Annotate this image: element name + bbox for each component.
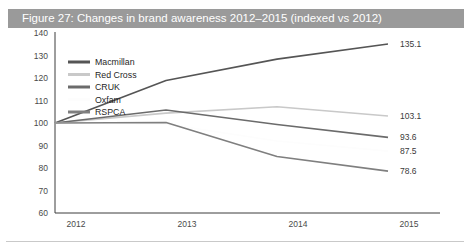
series-end-label-macmillan: 135.1 bbox=[400, 39, 422, 49]
y-axis-tick-label: 60 bbox=[39, 208, 49, 218]
line-chart: 60708090100110120130140 2012201320142015… bbox=[0, 28, 472, 228]
y-axis-tick-label: 140 bbox=[34, 28, 48, 38]
x-axis-tick-label: 2014 bbox=[289, 219, 308, 228]
chart-legend: MacmillanRed CrossCRUKOxfamRSPCA bbox=[68, 57, 137, 117]
chart-svg: 60708090100110120130140 2012201320142015… bbox=[0, 28, 472, 228]
y-axis-tick-label: 100 bbox=[34, 118, 48, 128]
legend-label-rspca: RSPCA bbox=[95, 107, 125, 117]
figure-title-bar: Figure 27: Changes in brand awareness 20… bbox=[8, 9, 464, 28]
legend-label-oxfam: Oxfam bbox=[95, 95, 121, 105]
figure-title: Figure 27: Changes in brand awareness 20… bbox=[22, 12, 382, 24]
legend-label-macmillan: Macmillan bbox=[95, 57, 135, 67]
clipped-text-above-figure bbox=[6, 0, 446, 6]
y-axis-tick-label: 80 bbox=[39, 163, 49, 173]
legend-label-cruk: CRUK bbox=[95, 82, 120, 92]
y-axis-tick-labels: 60708090100110120130140 bbox=[34, 28, 48, 218]
y-axis-tick-label: 120 bbox=[34, 73, 48, 83]
series-line-oxfam bbox=[55, 123, 388, 151]
y-axis-tick-label: 90 bbox=[39, 141, 49, 151]
x-axis-tick-labels: 2012201320142015 bbox=[67, 219, 419, 228]
y-axis-tick-label: 70 bbox=[39, 186, 49, 196]
x-axis-tick-label: 2015 bbox=[400, 219, 419, 228]
x-axis-tick-label: 2013 bbox=[178, 219, 197, 228]
legend-label-red-cross: Red Cross bbox=[95, 70, 137, 80]
y-axis-tick-label: 110 bbox=[34, 96, 48, 106]
x-axis-tick-label: 2012 bbox=[67, 219, 86, 228]
page-bottom-rule bbox=[6, 241, 464, 242]
series-end-label-cruk: 93.6 bbox=[400, 132, 417, 142]
figure-container: Figure 27: Changes in brand awareness 20… bbox=[0, 0, 472, 247]
series-end-label-rspca: 78.6 bbox=[400, 166, 417, 176]
y-axis-tick-label: 130 bbox=[34, 51, 48, 61]
series-end-label-oxfam: 87.5 bbox=[400, 146, 417, 156]
series-end-labels: 135.1103.193.687.578.6 bbox=[400, 39, 422, 176]
series-end-label-red-cross: 103.1 bbox=[400, 111, 422, 121]
